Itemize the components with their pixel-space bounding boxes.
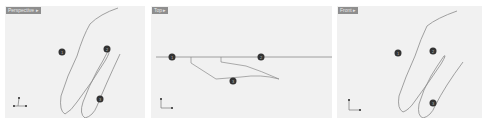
marker-2[interactable]: 2 <box>104 46 111 53</box>
top-canvas: 1 2 3 <box>151 6 332 118</box>
marker-1[interactable]: 1 <box>59 49 66 56</box>
viewport-top[interactable]: 1 2 3 Top ▸ <box>151 6 332 118</box>
marker-1[interactable]: 1 <box>395 50 402 57</box>
viewport-title-top[interactable]: Top ▸ <box>152 7 168 14</box>
axis-gizmo-icon <box>13 97 27 107</box>
curve <box>191 57 279 79</box>
perspective-canvas: 1 2 3 <box>5 6 145 118</box>
front-canvas: 1 2 3 <box>337 6 482 118</box>
marker-1[interactable]: 1 <box>169 54 176 61</box>
viewport-title-perspective[interactable]: Perspective ▸ <box>6 7 41 14</box>
marker-2[interactable]: 2 <box>258 54 265 61</box>
marker-2[interactable]: 2 <box>430 48 437 55</box>
marker-3[interactable]: 3 <box>97 96 104 103</box>
viewport-title-front[interactable]: Front ▸ <box>338 7 358 14</box>
viewport-perspective[interactable]: 1 2 3 Perspective ▸ <box>5 6 145 118</box>
marker-3[interactable]: 3 <box>230 78 237 85</box>
axis-gizmo-icon <box>348 99 361 111</box>
marker-3[interactable]: 3 <box>430 100 437 107</box>
curve <box>61 8 121 118</box>
axis-gizmo-icon <box>160 98 173 109</box>
viewport-front[interactable]: 1 2 3 Front ▸ <box>337 6 482 118</box>
